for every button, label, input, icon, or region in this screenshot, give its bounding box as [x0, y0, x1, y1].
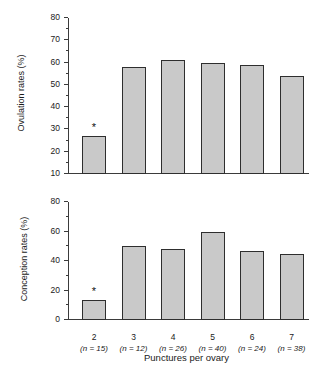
bar: [122, 67, 146, 174]
y-tick-label-40: 40: [51, 102, 60, 111]
bar: [82, 300, 106, 320]
y-tick-label-30: 30: [51, 124, 60, 133]
y-tick-label-40: 40: [51, 256, 60, 265]
bar-slot: [272, 18, 312, 174]
bar: [201, 63, 225, 174]
plot-area-conception: 020406080 *: [68, 202, 305, 320]
x-axis-category-labels: 2(n = 15)3(n = 12)4(n = 26)5(n = 40)6(n …: [68, 332, 305, 369]
bar-slot: [114, 202, 154, 320]
y-tick-label-80: 80: [51, 197, 60, 206]
x-axis-title: Punctures per ovary: [68, 352, 305, 363]
y-tick-label-50: 50: [51, 80, 60, 89]
x-axis-category: 5(n = 40): [193, 332, 233, 354]
bar: [161, 60, 185, 174]
x-category-value: 6: [232, 332, 272, 343]
bar-slot: [153, 18, 193, 174]
y-tick-label-60: 60: [51, 57, 60, 66]
bar-slot: [272, 202, 312, 320]
y-tick-label-20: 20: [51, 146, 60, 155]
y-tick-label-10: 10: [51, 169, 60, 178]
bar: [280, 76, 304, 174]
y-axis-title-conception: Conception rates (%): [19, 199, 29, 319]
figure-two-panel-bar-chart: Ovulation rates (%) 1020304050607080 * C…: [0, 0, 313, 369]
y-tick-label-20: 20: [51, 285, 60, 294]
bar: [122, 246, 146, 320]
bar: [161, 249, 185, 320]
x-category-value: 4: [153, 332, 193, 343]
plot-area-ovulation: 1020304050607080 *: [68, 18, 305, 174]
bar: [82, 136, 106, 174]
y-tick-label-0: 0: [55, 315, 60, 324]
x-axis-category: 4(n = 26): [153, 332, 193, 354]
y-tick-label-80: 80: [51, 13, 60, 22]
panel-conception-rates: Conception rates (%) 020406080 *: [0, 192, 313, 332]
x-category-value: 5: [193, 332, 233, 343]
bar-slot: *: [74, 202, 114, 320]
bar-slot: [232, 18, 272, 174]
bar: [201, 232, 225, 321]
x-category-value: 3: [114, 332, 154, 343]
x-category-value: 2: [74, 332, 114, 343]
x-axis-category: 3(n = 12): [114, 332, 154, 354]
significance-asterisk: *: [82, 286, 106, 297]
bar-slot: [153, 202, 193, 320]
bar-slot: [193, 18, 233, 174]
bar-series-conception: *: [68, 202, 305, 320]
y-axis-title-ovulation: Ovulation rates (%): [16, 33, 26, 153]
bar-series-ovulation: *: [68, 18, 305, 174]
bar-slot: [193, 202, 233, 320]
panel-ovulation-rates: Ovulation rates (%) 1020304050607080 *: [0, 8, 313, 184]
y-tick-label-70: 70: [51, 35, 60, 44]
x-axis-category: 6(n = 24): [232, 332, 272, 354]
bar: [240, 251, 264, 320]
bar: [280, 254, 304, 320]
bar-slot: *: [74, 18, 114, 174]
x-axis-category: 7(n = 38): [272, 332, 312, 354]
bar: [240, 65, 264, 174]
x-axis-category: 2(n = 15): [74, 332, 114, 354]
y-tick-label-60: 60: [51, 226, 60, 235]
bar-slot: [114, 18, 154, 174]
significance-asterisk: *: [82, 122, 106, 133]
bar-slot: [232, 202, 272, 320]
x-category-value: 7: [272, 332, 312, 343]
